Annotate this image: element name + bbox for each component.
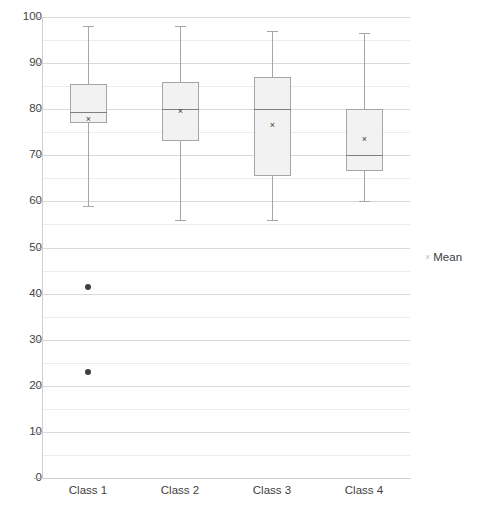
y-tick-mark <box>34 17 41 18</box>
y-tick-mark <box>34 63 41 64</box>
whisker-cap-upper <box>267 31 278 32</box>
gridline-minor <box>42 271 410 272</box>
y-tick-mark <box>34 109 41 110</box>
mean-marker: × <box>83 115 94 124</box>
median-line <box>346 155 383 156</box>
gridline-minor <box>42 409 410 410</box>
whisker-cap-lower <box>83 206 94 207</box>
legend-label-mean: Mean <box>433 252 462 264</box>
gridline-major <box>42 248 410 249</box>
y-tick-mark <box>34 248 41 249</box>
gridline-minor <box>42 178 410 179</box>
plot-area: ×××× <box>42 17 410 478</box>
gridline-minor <box>42 40 410 41</box>
y-axis-line <box>42 17 43 479</box>
mean-marker: × <box>267 121 278 130</box>
x-tick-label-3: Class 3 <box>226 484 318 496</box>
gridline-major <box>42 17 410 18</box>
median-line <box>254 109 291 110</box>
whisker-cap-lower <box>175 220 186 221</box>
y-axis: 1009080706050403020100 <box>0 0 42 517</box>
box-plot-chart: 1009080706050403020100 ×××× Class 1Class… <box>0 0 484 517</box>
x-axis-line <box>42 478 411 479</box>
gridline-major <box>42 201 410 202</box>
x-tick-label-2: Class 2 <box>134 484 226 496</box>
whisker-cap-upper <box>175 26 186 27</box>
gridline-minor <box>42 455 410 456</box>
gridline-major <box>42 386 410 387</box>
whisker-cap-upper <box>359 33 370 34</box>
gridline-minor <box>42 224 410 225</box>
gridline-minor <box>42 363 410 364</box>
chart-title <box>0 0 484 2</box>
gridline-major <box>42 63 410 64</box>
y-tick-mark <box>34 340 41 341</box>
legend[interactable]: × Mean <box>425 252 462 264</box>
mean-marker: × <box>175 107 186 116</box>
whisker-cap-lower <box>267 220 278 221</box>
outlier-point[interactable] <box>85 284 91 290</box>
x-tick-label-4: Class 4 <box>318 484 410 496</box>
whisker-cap-upper <box>83 26 94 27</box>
whisker-cap-lower <box>359 201 370 202</box>
gridline-major <box>42 340 410 341</box>
gridline-major <box>42 432 410 433</box>
y-tick-mark <box>34 155 41 156</box>
mean-marker-icon: × <box>425 253 430 262</box>
y-tick-mark <box>34 478 41 479</box>
outlier-point[interactable] <box>85 369 91 375</box>
gridline-major <box>42 294 410 295</box>
y-tick-mark <box>34 201 41 202</box>
gridline-minor <box>42 317 410 318</box>
x-tick-label-1: Class 1 <box>42 484 134 496</box>
y-tick-mark <box>34 432 41 433</box>
y-tick-mark <box>34 294 41 295</box>
y-tick-mark <box>34 386 41 387</box>
mean-marker: × <box>359 135 370 144</box>
median-line <box>70 112 107 113</box>
